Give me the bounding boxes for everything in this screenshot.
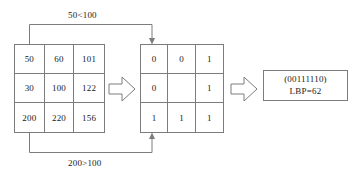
binary-cell: 1 [141,103,168,132]
lbp-binary-string: (00111110) [284,74,327,85]
pixel-cell: 50 [15,45,45,74]
lbp-value: LBP=62 [290,86,322,97]
pixel-cell: 156 [74,103,104,132]
binary-cell-center-empty [168,74,195,103]
binary-cell: 0 [168,45,195,74]
binary-cell: 0 [141,45,168,74]
binary-cell: 1 [168,103,195,132]
top-comparison-label: 50<100 [68,10,97,20]
binary-cell: 1 [196,74,223,103]
pixel-cell: 220 [45,103,75,132]
binary-cell: 1 [196,103,223,132]
binary-cell: 0 [141,74,168,103]
block-arrow-right-icon [230,74,258,104]
pixel-intensity-grid: 50 60 101 30 100 122 200 220 156 [14,44,105,133]
pixel-cell-center: 100 [45,74,75,103]
pixel-cell: 30 [15,74,45,103]
pixel-cell: 60 [45,45,75,74]
thresholded-binary-grid: 0 0 1 0 1 1 1 1 [140,44,224,133]
pixel-cell: 200 [15,103,45,132]
pixel-cell: 122 [74,74,104,103]
lbp-result-box: (00111110) LBP=62 [263,70,348,101]
pixel-cell: 101 [74,45,104,74]
block-arrow-right-icon [108,74,136,104]
binary-cell: 1 [196,45,223,74]
lbp-diagram: 50 60 101 30 100 122 200 220 156 0 0 1 0… [0,0,356,182]
bottom-comparison-label: 200>100 [68,158,101,168]
